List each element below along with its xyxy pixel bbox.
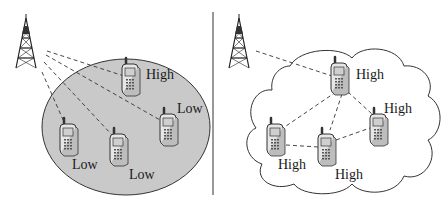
device-label: Low	[177, 102, 203, 116]
device-label: High	[146, 68, 174, 82]
diagram-canvas	[0, 0, 448, 207]
diagram: High Low Low Low High High High High	[0, 0, 448, 207]
device-label: High	[384, 102, 412, 116]
device-label: High	[335, 168, 363, 182]
device-label: High	[278, 158, 306, 172]
device-label: Low	[72, 158, 98, 172]
device-label: High	[356, 68, 384, 82]
base-station-tower-icon	[229, 14, 249, 68]
base-station-tower-icon	[16, 14, 36, 68]
device-label: Low	[129, 168, 155, 182]
